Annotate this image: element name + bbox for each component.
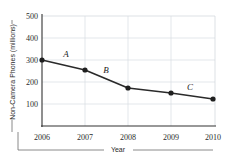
data-point-2007: [82, 67, 87, 72]
y-axis-title: Non-Camera Phones (millions): [9, 24, 17, 120]
data-point-2010: [210, 96, 215, 101]
y-tick-100: 100: [26, 100, 38, 109]
y-axis-title-group: Non-Camera Phones (millions): [9, 20, 17, 132]
y-tick-500: 500: [26, 12, 38, 21]
x-tick-2009: 2009: [163, 133, 179, 142]
x-tick-2007: 2007: [77, 133, 93, 142]
x-tick-labels: 2006 2007 2008 2009 2010: [34, 133, 221, 142]
line-chart-svg: 500 400 300 200 100 2006 2007 2008 2009 …: [0, 0, 225, 160]
segment-label-c: C: [187, 82, 194, 92]
y-tick-400: 400: [26, 34, 38, 43]
plot-area-background: [42, 16, 215, 126]
data-point-2008: [125, 85, 130, 90]
segment-label-a: A: [62, 49, 69, 59]
chart-figure: 500 400 300 200 100 2006 2007 2008 2009 …: [0, 0, 225, 160]
y-tick-300: 300: [26, 56, 38, 65]
data-point-2006: [39, 57, 44, 62]
x-tick-2008: 2008: [120, 133, 136, 142]
data-point-2009: [168, 90, 173, 95]
y-tick-labels: 500 400 300 200 100: [26, 12, 38, 109]
segment-label-b: B: [103, 65, 109, 75]
y-tick-200: 200: [26, 78, 38, 87]
x-tick-2010: 2010: [205, 133, 221, 142]
x-tick-2006: 2006: [34, 133, 50, 142]
x-axis-title: Year: [111, 146, 126, 153]
